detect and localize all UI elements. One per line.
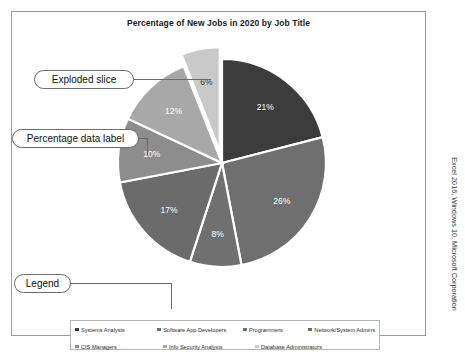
legend-swatch-icon (157, 328, 161, 332)
chart-legend[interactable]: Systems Analysts Software App Developers… (70, 320, 380, 350)
leader-line-datalabel-vertical (147, 138, 148, 155)
pie-chart: 21%26%8%17%10%12%6% (97, 38, 347, 288)
legend-row-2: CIS Managers Info Security Analysts Data… (75, 341, 375, 352)
callout-percentage-data-label: Percentage data label (12, 129, 139, 148)
legend-label: Software App Developers (163, 327, 226, 333)
callout-legend: Legend (14, 274, 71, 293)
legend-item-systems-analysts[interactable]: Systems Analysts (75, 327, 157, 333)
pie-slice-label: 8% (211, 229, 224, 239)
legend-swatch-icon (255, 345, 259, 349)
legend-swatch-icon (75, 345, 79, 349)
legend-label: Systems Analysts (81, 327, 125, 333)
leader-line-legend-vertical (171, 283, 172, 309)
leader-line-exploded (133, 79, 211, 80)
legend-item-programmers[interactable]: Programmers (243, 327, 308, 333)
source-credit: Excel 2016, Windows 10, Microsoft Corpor… (450, 157, 459, 311)
legend-label: Programmers (249, 327, 283, 333)
legend-label: CIS Managers (81, 344, 117, 350)
legend-swatch-icon (75, 328, 79, 332)
chart-title: Percentage of New Jobs in 2020 by Job Ti… (12, 18, 425, 28)
credit-holder: Excel 2016, Windows 10, Microsoft Corpor… (447, 124, 461, 344)
callout-exploded-slice: Exploded slice (34, 70, 134, 89)
legend-row-1: Systems Analysts Software App Developers… (75, 324, 375, 335)
legend-item-software-app-developers[interactable]: Software App Developers (157, 327, 243, 333)
pie-svg: 21%26%8%17%10%12%6% (97, 38, 347, 288)
legend-label: Info Security Analysts (169, 344, 222, 350)
pie-slice-label: 12% (165, 106, 182, 116)
pie-slice-label: 21% (257, 102, 274, 112)
legend-item-database-administrators[interactable]: Database Administrators (255, 344, 322, 350)
legend-item-network-system-admins[interactable]: Network/System Admins (308, 327, 375, 333)
legend-swatch-icon (243, 328, 247, 332)
legend-label: Network/System Admins (314, 327, 375, 333)
pie-slice-label: 26% (273, 196, 290, 206)
pie-slice-label: 10% (143, 149, 160, 159)
legend-item-info-security-analysts[interactable]: Info Security Analysts (163, 344, 255, 350)
chart-frame: Percentage of New Jobs in 2020 by Job Ti… (11, 11, 426, 336)
legend-swatch-icon (163, 345, 167, 349)
legend-label: Database Administrators (261, 344, 322, 350)
legend-swatch-icon (308, 328, 312, 332)
leader-line-legend-horizontal (70, 283, 172, 284)
pie-slice-label: 17% (160, 205, 177, 215)
legend-item-cis-managers[interactable]: CIS Managers (75, 344, 163, 350)
